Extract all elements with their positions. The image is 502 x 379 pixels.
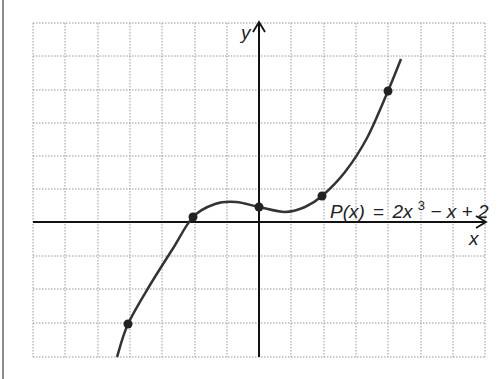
equation-term1: 2x (392, 201, 415, 222)
polynomial-graph: y x P(x) = 2x 3 − x + 2 (0, 0, 502, 379)
equation-rest: − x + 2 (430, 201, 489, 222)
point-marker (318, 192, 327, 201)
equation-label: P(x) = 2x 3 − x + 2 (330, 193, 489, 222)
point-marker (384, 87, 393, 96)
point-marker (124, 320, 133, 329)
point-marker (189, 213, 198, 222)
y-axis-label: y (239, 22, 252, 43)
point-marker (255, 203, 264, 212)
equation-lhs: P(x) (330, 201, 365, 222)
equation-equals: = (373, 201, 384, 222)
x-axis-label: x (468, 228, 480, 249)
equation-exponent: 3 (418, 198, 425, 213)
